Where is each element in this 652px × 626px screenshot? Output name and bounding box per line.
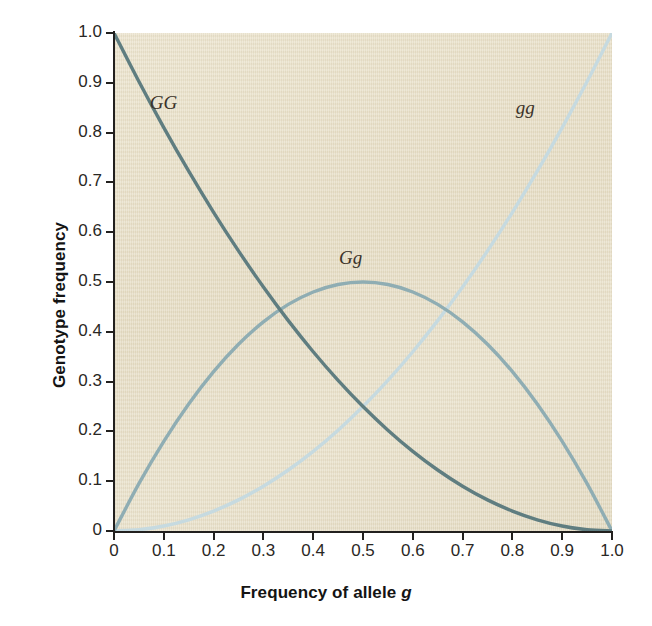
x-tick <box>412 533 414 540</box>
x-tick <box>163 533 165 540</box>
y-tick-label: 0 <box>56 520 102 540</box>
curves-svg <box>114 33 612 531</box>
x-tick-label: 0.4 <box>290 541 336 561</box>
y-tick-label: 1.0 <box>56 22 102 42</box>
x-tick <box>511 533 513 540</box>
y-axis-title: Genotype frequency <box>50 105 70 505</box>
x-tick-label: 1.0 <box>589 541 635 561</box>
y-axis-line <box>113 31 115 533</box>
x-tick-label: 0.7 <box>440 541 486 561</box>
x-tick-label: 0.2 <box>191 541 237 561</box>
y-tick <box>106 430 113 432</box>
x-tick <box>113 533 115 540</box>
y-tick-label: 0.9 <box>56 72 102 92</box>
y-tick <box>106 82 113 84</box>
y-tick <box>106 381 113 383</box>
x-tick-label: 0.6 <box>390 541 436 561</box>
x-tick <box>561 533 563 540</box>
x-tick-label: 0.1 <box>141 541 187 561</box>
y-tick <box>106 331 113 333</box>
x-axis-title-italic-g: g <box>401 583 411 602</box>
y-tick <box>106 181 113 183</box>
curve-label-GG: GG <box>150 92 177 114</box>
x-axis-title: Frequency of allele g <box>0 583 652 603</box>
y-tick <box>106 132 113 134</box>
x-tick-label: 0 <box>91 541 137 561</box>
x-tick-label: 0.9 <box>539 541 585 561</box>
x-axis-title-text: Frequency of allele <box>240 583 401 602</box>
x-tick <box>262 533 264 540</box>
curve-label-gg: gg <box>516 97 535 119</box>
x-tick-label: 0.8 <box>489 541 535 561</box>
y-tick <box>106 530 113 532</box>
x-tick <box>213 533 215 540</box>
y-tick <box>106 281 113 283</box>
y-tick <box>106 32 113 34</box>
x-tick-label: 0.5 <box>340 541 386 561</box>
hardy-weinberg-genotype-frequency-chart: gg GG Gg 00.10.20.30.40.50.60.70.80.91.0… <box>0 0 652 626</box>
x-tick <box>312 533 314 540</box>
curve-label-Gg: Gg <box>339 247 362 269</box>
plot-area: gg GG Gg <box>114 33 612 531</box>
y-tick <box>106 231 113 233</box>
x-tick <box>462 533 464 540</box>
y-tick <box>106 480 113 482</box>
x-tick <box>611 533 613 540</box>
x-tick-label: 0.3 <box>240 541 286 561</box>
x-tick <box>362 533 364 540</box>
